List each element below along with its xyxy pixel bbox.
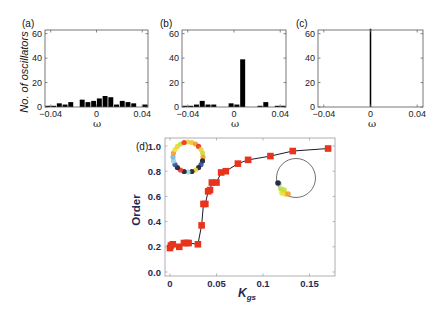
histogram-bar xyxy=(120,101,125,107)
x-tick-label: 0.04 xyxy=(271,109,289,119)
data-point-marker xyxy=(267,153,274,160)
histogram-bar xyxy=(97,98,102,107)
x-tick-label: −0.04 xyxy=(176,109,199,119)
y-tick-label: 40 xyxy=(169,53,179,63)
x-axis-label-b: ω xyxy=(231,118,239,129)
data-point-marker xyxy=(289,148,296,155)
plot-frame xyxy=(182,30,286,107)
data-point-marker xyxy=(245,157,252,164)
data-point-marker xyxy=(195,241,202,248)
data-point-marker xyxy=(325,145,332,152)
data-point-marker xyxy=(185,240,192,247)
histogram-bar xyxy=(263,102,268,107)
histogram-bar xyxy=(85,102,90,107)
y-tick-label: 0.0 xyxy=(148,267,161,278)
data-point-marker xyxy=(169,241,176,248)
y-tick-label: 20 xyxy=(305,78,315,88)
data-point-marker xyxy=(213,179,220,186)
histogram-bar xyxy=(370,29,372,107)
data-point-marker xyxy=(198,222,205,229)
synchronized-phase-ring-inset xyxy=(275,159,315,198)
data-point-marker xyxy=(207,187,214,194)
histogram-bar xyxy=(126,102,131,107)
histogram-y-axis-label: No. of oscillators xyxy=(18,31,30,113)
histogram-bar xyxy=(108,97,113,107)
histogram-bar xyxy=(80,100,85,107)
y-tick-label: 60 xyxy=(32,29,42,39)
x-tick-label: 0.1 xyxy=(256,278,270,289)
panel-label-b: (b) xyxy=(160,18,172,29)
x-tick-label: 0.05 xyxy=(207,278,226,289)
y-axis-label-order: Order xyxy=(130,194,142,226)
panel-label-a: (a) xyxy=(22,18,34,29)
x-tick-label: −0.04 xyxy=(39,109,62,119)
histogram-panel-c: 0204060−0.0400.04 xyxy=(305,29,426,119)
histogram-bar xyxy=(57,103,62,107)
histogram-bar xyxy=(229,103,234,107)
data-point-marker xyxy=(223,168,230,175)
y-tick-label: 1.0 xyxy=(148,141,161,152)
y-tick-label: 0.2 xyxy=(148,241,161,252)
panel-label-c: (c) xyxy=(296,18,308,29)
y-tick-label: 40 xyxy=(32,53,42,63)
x-tick-label: −0.04 xyxy=(312,109,335,119)
order-vs-coupling-panel-d: 0.00.20.40.60.81.000.050.10.15 xyxy=(148,138,335,289)
panel-label-d: (d) xyxy=(136,141,148,152)
data-point-marker xyxy=(202,201,209,208)
figure: (a) (b) (c) (d) No. of oscillators 02040… xyxy=(0,0,441,310)
histogram-panel-b: 0204060−0.0400.04 xyxy=(169,29,289,119)
histogram-bar xyxy=(68,102,73,107)
y-tick-label: 0.8 xyxy=(148,166,161,177)
y-tick-label: 20 xyxy=(32,78,42,88)
histogram-bar xyxy=(91,101,96,107)
x-tick-label: 0 xyxy=(167,278,172,289)
x-tick-label: 0.04 xyxy=(408,109,426,119)
histogram-panel-a: 0204060−0.0400.04 xyxy=(32,29,151,119)
histogram-bar xyxy=(103,96,108,107)
y-tick-label: 0.4 xyxy=(148,216,162,227)
order-curve-line xyxy=(170,149,328,249)
incoherent-phase-ring-inset xyxy=(170,139,205,174)
x-axis-label-a: ω xyxy=(93,118,101,129)
y-tick-label: 60 xyxy=(305,29,315,39)
y-tick-label: 0.6 xyxy=(148,191,161,202)
x-tick-label: 0.04 xyxy=(134,109,152,119)
histogram-bar xyxy=(131,103,136,107)
plot-frame xyxy=(45,30,148,107)
x-axis-label-c: ω xyxy=(368,118,376,129)
y-tick-label: 40 xyxy=(305,53,315,63)
y-tick-label: 60 xyxy=(169,29,179,39)
data-point-marker xyxy=(235,160,242,167)
x-tick-label: 0.15 xyxy=(300,278,319,289)
histogram-bar xyxy=(200,101,205,107)
x-axis-label-kgs: Kgs xyxy=(238,286,257,302)
y-tick-label: 20 xyxy=(169,78,179,88)
histogram-bar xyxy=(240,59,245,107)
